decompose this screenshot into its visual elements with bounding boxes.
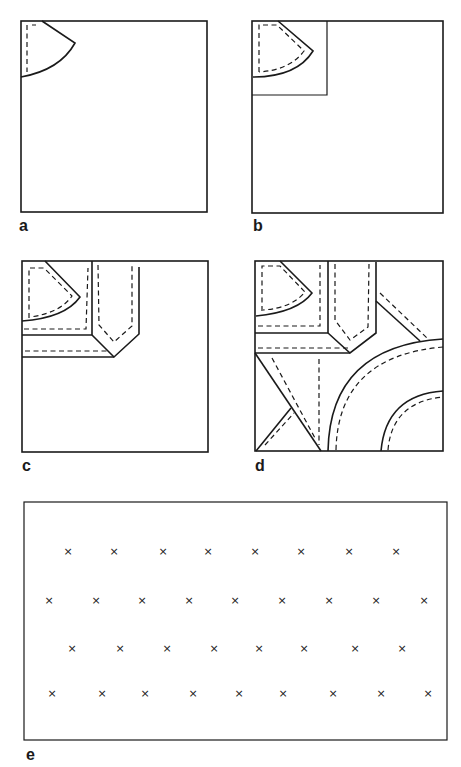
cross-mark: × [376,688,385,699]
cross-mark: × [328,688,337,699]
cross-mark: × [184,595,193,606]
panel-e-frame [24,502,447,740]
cross-mark: × [277,595,286,606]
panel-a [21,21,207,212]
cross-mark: × [419,595,428,606]
panel-label-c: c [22,458,31,474]
diagonal-strip-seam [380,293,427,338]
cross-mark: × [371,595,380,606]
panel-e [24,502,447,740]
panel-a-frame [21,21,207,212]
cross-mark: × [97,688,106,699]
diagonal-strip-edge [255,353,321,451]
cross-mark: × [254,643,263,654]
cross-mark: × [137,595,146,606]
cross-mark: × [47,688,56,699]
quarter-circle-piece [253,21,313,77]
cross-mark: × [423,688,432,699]
large-arc [328,339,443,451]
large-arc-seam [336,347,443,450]
cross-mark: × [109,546,118,557]
cross-mark: × [188,688,197,699]
diagonal-strip-seam [272,358,316,440]
cross-mark: × [278,688,287,699]
panel-b [252,21,443,213]
quarter-circle-piece [21,21,75,77]
cross-mark: × [344,546,353,557]
cross-mark: × [91,595,100,606]
panel-c [22,261,208,452]
cross-mark: × [250,546,259,557]
cross-mark: × [296,546,305,557]
diagonal-strip-edge [256,408,291,451]
small-arc-seam [388,397,443,450]
cross-mark: × [230,595,239,606]
strip-seam-line [335,264,369,340]
seam-allowance-line [259,25,304,72]
panel-d [255,261,443,451]
cross-mark: × [324,595,333,606]
panel-label-a: a [19,218,28,234]
cross-mark: × [162,643,171,654]
panel-b-frame [252,21,443,213]
cross-mark: × [350,643,359,654]
diagonal-strip-seam [265,413,294,445]
small-arc [381,391,443,451]
panel-label-e: e [26,747,35,763]
quarter-circle-piece [256,261,312,316]
panel-d-frame [255,261,443,451]
panel-label-b: b [253,218,263,234]
cross-mark: × [115,643,124,654]
cross-mark: × [44,595,53,606]
cross-mark: × [234,688,243,699]
diagonal-strip-edge [376,301,420,341]
cross-mark: × [397,643,406,654]
cross-mark: × [140,688,149,699]
cross-mark: × [391,546,400,557]
corner-square [252,21,327,95]
corner-square [22,261,92,335]
cross-mark: × [67,643,76,654]
cross-mark: × [209,643,218,654]
panel-label-d: d [255,458,265,474]
cross-mark: × [203,546,212,557]
cross-mark: × [299,643,308,654]
cross-mark: × [63,546,72,557]
cross-mark: × [158,546,167,557]
strip-seam-line [98,265,132,342]
seam-allowance-line [27,25,36,72]
